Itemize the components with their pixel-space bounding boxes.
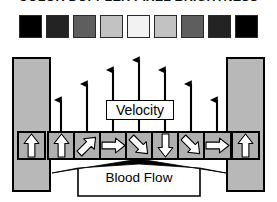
grayscale-colorbar: [19, 14, 258, 38]
vessel-diagram: Velocity Blood Flow: [0, 40, 277, 202]
colorbar-swatch: [73, 15, 96, 38]
velocity-vector-group: [61, 60, 217, 132]
doppler-cell: [126, 132, 153, 159]
doppler-cell-row: [48, 132, 231, 159]
colorbar-swatch: [19, 15, 42, 38]
figure-title-strip: COLOR DOPPLER PIXEL BRIGHTNESS: [0, 0, 277, 4]
blood-flow-label: Blood Flow: [79, 166, 199, 188]
left-vessel-wall: [13, 58, 50, 191]
colorbar-swatch: [235, 15, 258, 38]
doppler-velocity-figure: COLOR DOPPLER PIXEL BRIGHTNESS: [0, 0, 277, 202]
doppler-cell: [178, 132, 205, 159]
colorbar-swatch: [46, 15, 69, 38]
doppler-cell: [74, 132, 101, 159]
doppler-cell: [204, 132, 231, 159]
colorbar-swatch: [154, 15, 177, 38]
colorbar-swatch: [127, 15, 150, 38]
velocity-label: Velocity: [106, 100, 174, 120]
page-title: COLOR DOPPLER PIXEL BRIGHTNESS: [0, 0, 277, 4]
doppler-cell: [152, 132, 179, 159]
doppler-cell: [48, 132, 75, 159]
colorbar-swatch: [100, 15, 123, 38]
colorbar-swatch: [208, 15, 231, 38]
doppler-cell: [100, 132, 127, 159]
right-vessel-wall: [227, 58, 264, 191]
colorbar-swatch: [181, 15, 204, 38]
